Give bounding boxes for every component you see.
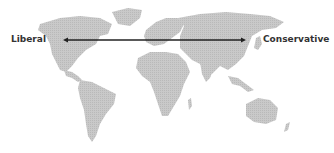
new-zealand <box>284 122 290 132</box>
india <box>200 62 214 82</box>
continents <box>38 8 290 142</box>
madagascar <box>188 98 192 110</box>
greenland <box>112 8 142 26</box>
liberal-label: Liberal <box>11 34 46 44</box>
world-map <box>0 0 334 153</box>
africa <box>136 52 190 116</box>
south-america <box>78 80 116 142</box>
north-america <box>38 16 112 72</box>
japan <box>254 36 262 50</box>
central-america <box>64 70 82 82</box>
conservative-label: Conservative <box>263 34 329 44</box>
europe <box>144 18 184 46</box>
southeast-asia <box>228 76 254 92</box>
australia <box>246 98 278 124</box>
